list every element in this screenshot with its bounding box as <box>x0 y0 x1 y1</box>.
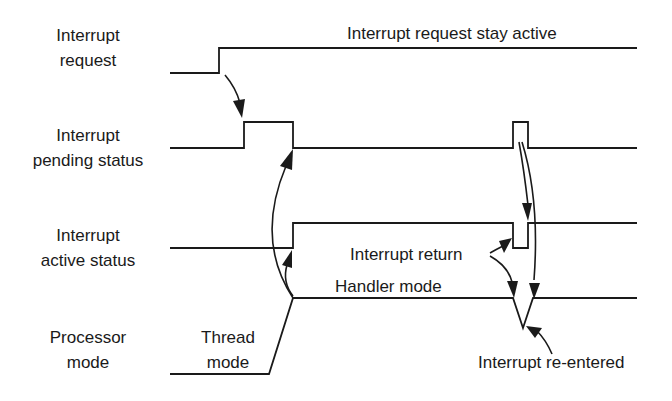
svg-text:mode: mode <box>207 353 250 372</box>
annotation-interrupt-reentered: Interrupt re-entered <box>478 353 624 372</box>
timing-diagram: Interrupt request Interrupt pending stat… <box>0 0 672 401</box>
annotation-handler-mode: Handler mode <box>335 277 442 296</box>
svg-text:Thread: Thread <box>201 328 255 347</box>
svg-text:pending status: pending status <box>33 151 144 170</box>
signal-label-active-status: Interrupt active status <box>41 226 136 270</box>
arrow-return-to-mode <box>490 256 518 298</box>
arrow-return-to-active <box>490 238 512 253</box>
svg-text:Interrupt: Interrupt <box>56 26 120 45</box>
signal-label-interrupt-request: Interrupt request <box>56 26 120 70</box>
signal-label-processor-mode: Processor mode <box>50 328 127 372</box>
svg-text:Interrupt: Interrupt <box>56 226 120 245</box>
signal-label-pending-status: Interrupt pending status <box>33 126 144 170</box>
svg-text:Interrupt: Interrupt <box>56 126 120 145</box>
waveform-pending-status <box>170 122 637 148</box>
arrow-reentered <box>526 326 552 354</box>
arrow-pending-to-mode <box>522 142 540 299</box>
svg-text:mode: mode <box>67 353 110 372</box>
arrow-request-to-pending <box>225 75 245 118</box>
arrow-mode-to-pending-clear <box>272 149 293 298</box>
waveform-interrupt-request <box>170 48 637 73</box>
annotation-irq-stay-active: Interrupt request stay active <box>347 24 557 43</box>
annotation-interrupt-return: Interrupt return <box>350 245 462 264</box>
annotation-thread-mode: Thread mode <box>201 328 255 372</box>
svg-text:active status: active status <box>41 251 136 270</box>
svg-text:Processor: Processor <box>50 328 127 347</box>
svg-text:request: request <box>60 51 117 70</box>
